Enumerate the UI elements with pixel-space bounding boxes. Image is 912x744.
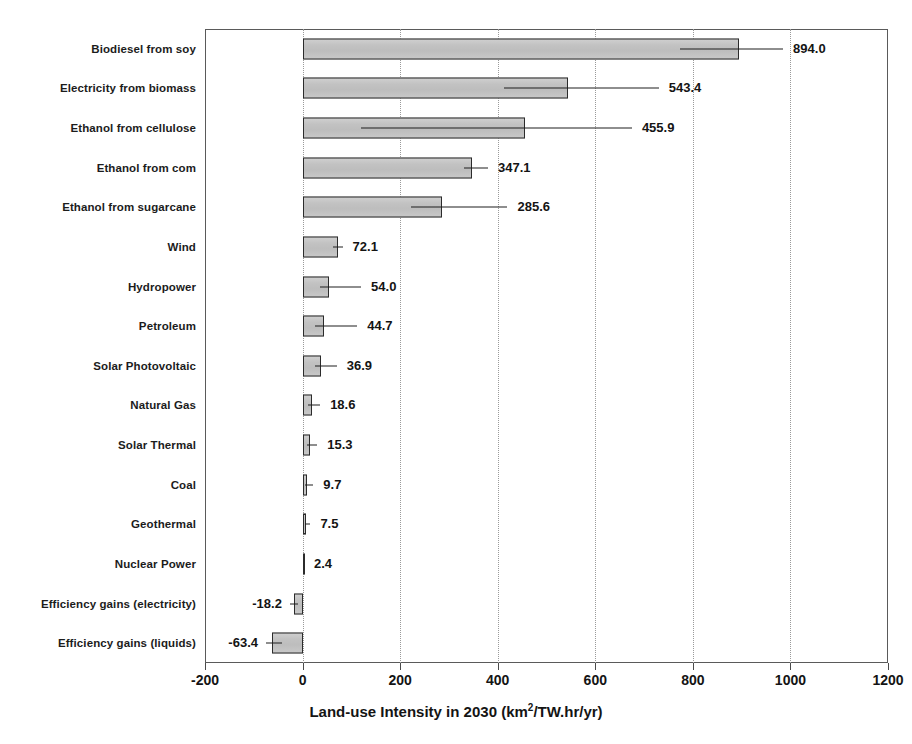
- x-tick-label: 400: [486, 672, 509, 688]
- bar: [303, 553, 305, 574]
- category-label: Efficiency gains (liquids): [0, 637, 196, 650]
- category-label: Wind: [0, 240, 196, 253]
- category-label: Efficiency gains (electricity): [0, 597, 196, 610]
- error-bar: [308, 405, 320, 406]
- category-label: Geothermal: [0, 518, 196, 531]
- x-tick--200: [205, 663, 206, 670]
- error-bar: [266, 643, 282, 644]
- error-bar: [315, 326, 357, 327]
- value-label: 18.6: [330, 398, 355, 412]
- error-bar: [464, 167, 488, 168]
- x-axis-title-prefix: Land-use Intensity in 2030 (km: [309, 703, 527, 720]
- value-label: 54.0: [371, 280, 396, 294]
- error-bar: [411, 207, 507, 208]
- x-tick-400: [498, 663, 499, 670]
- category-label: Ethanol from sugarcane: [0, 201, 196, 214]
- x-tick-label: -200: [191, 672, 219, 688]
- bar: [303, 38, 739, 59]
- error-bar: [504, 88, 659, 89]
- x-tick-label: 600: [584, 672, 607, 688]
- bar: [303, 157, 472, 178]
- value-label: 44.7: [367, 319, 392, 333]
- category-label: Nuclear Power: [0, 557, 196, 570]
- x-axis-title-suffix: /TW.hr/yr): [533, 703, 602, 720]
- error-bar: [305, 524, 311, 525]
- value-label: 2.4: [314, 557, 332, 571]
- category-label: Ethanol from cellulose: [0, 122, 196, 135]
- x-axis-title: Land-use Intensity in 2030 (km2/TW.hr/yr…: [0, 703, 912, 720]
- x-tick-label: 800: [681, 672, 704, 688]
- value-label: 9.7: [323, 478, 341, 492]
- x-tick-label: 1000: [775, 672, 806, 688]
- category-label: Ethanol from com: [0, 161, 196, 174]
- x-tick-label: 1200: [872, 672, 903, 688]
- category-label: Electricity from biomass: [0, 82, 196, 95]
- category-label: Solar Photovoltaic: [0, 359, 196, 372]
- value-label: 72.1: [353, 240, 378, 254]
- x-tick-800: [693, 663, 694, 670]
- error-bar: [320, 286, 361, 287]
- error-bar: [290, 603, 298, 604]
- x-tick-200: [400, 663, 401, 670]
- value-label: 7.5: [320, 517, 338, 531]
- category-label: Hydropower: [0, 280, 196, 293]
- error-bar: [680, 48, 783, 49]
- x-tick-label: 200: [388, 672, 411, 688]
- category-label: Coal: [0, 478, 196, 491]
- x-tick-0: [303, 663, 304, 670]
- category-label: Natural Gas: [0, 399, 196, 412]
- value-label: 543.4: [669, 81, 702, 95]
- error-bar: [333, 246, 342, 247]
- category-label: Biodiesel from soy: [0, 42, 196, 55]
- gridline-800: [693, 29, 694, 663]
- value-label: 36.9: [347, 359, 372, 373]
- value-label: -18.2: [252, 597, 282, 611]
- x-tick-600: [595, 663, 596, 670]
- error-bar: [315, 365, 337, 366]
- value-label: 285.6: [517, 200, 550, 214]
- x-tick-1200: [888, 663, 889, 670]
- x-tick-label: 0: [299, 672, 307, 688]
- value-label: 15.3: [327, 438, 352, 452]
- value-label: 455.9: [642, 121, 675, 135]
- category-label: Solar Thermal: [0, 439, 196, 452]
- error-bar: [305, 484, 313, 485]
- chart-root: Biodiesel from soy894.0Electricity from …: [0, 0, 912, 744]
- category-label: Petroleum: [0, 320, 196, 333]
- gridline-1000: [790, 29, 791, 663]
- error-bar: [307, 445, 317, 446]
- value-label: -63.4: [228, 636, 258, 650]
- value-label: 347.1: [498, 161, 531, 175]
- error-bar: [361, 128, 632, 129]
- gridline-600: [595, 29, 596, 663]
- x-tick-1000: [790, 663, 791, 670]
- value-label: 894.0: [793, 42, 826, 56]
